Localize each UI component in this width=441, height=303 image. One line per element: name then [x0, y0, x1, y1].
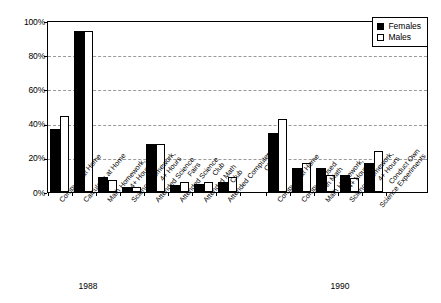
y-tick-label-20: 20%: [5, 154, 45, 163]
y-tick-mark-20: [44, 159, 47, 160]
y-tick-label-60: 60%: [5, 86, 45, 95]
legend-swatch-males-icon: [377, 34, 384, 41]
y-tick-label-100: 100%: [5, 18, 45, 27]
bar-chart: 100% 80% 60% 40% 20% 0% Computer at Home…: [0, 0, 441, 303]
bar-males-0: [60, 116, 70, 193]
legend-item-males: Males: [377, 32, 421, 43]
group-label-1990: 1990: [310, 281, 370, 291]
bar-females-0: [50, 129, 60, 192]
legend-label-males: Males: [388, 33, 411, 42]
legend-label-females: Females: [388, 22, 421, 31]
group-label-1988: 1988: [58, 281, 118, 291]
legend-item-females: Females: [377, 21, 421, 32]
y-tick-mark-100: [44, 22, 47, 23]
bar-males-8: [278, 119, 288, 192]
y-tick-mark-40: [44, 125, 47, 126]
legend: Females Males: [372, 17, 428, 47]
y-tick-label-40: 40%: [5, 120, 45, 129]
y-tick-mark-80: [44, 56, 47, 57]
legend-swatch-females-icon: [377, 23, 384, 30]
x-axis-labels: Computer at HomeCalculator at HomeMath H…: [0, 193, 441, 273]
y-tick-label-80: 80%: [5, 52, 45, 61]
y-tick-mark-60: [44, 90, 47, 91]
